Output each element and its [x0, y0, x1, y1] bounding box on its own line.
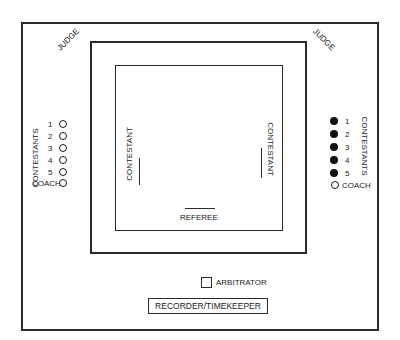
- left-contestant-1-marker: [59, 120, 67, 128]
- left-contestant-2-marker: [59, 132, 67, 140]
- right-contestant-3-marker: [330, 143, 338, 151]
- left-contestant-5-number: 5: [48, 169, 52, 177]
- left-contestant-4-number: 4: [48, 157, 52, 165]
- arbitrator-box: [201, 277, 212, 288]
- contestant-left-line: [139, 158, 140, 185]
- right-coach-label: COACH: [342, 182, 371, 190]
- right-contestant-4-marker: [330, 156, 338, 164]
- referee-label: REFEREE: [180, 214, 218, 222]
- contestant-left-label: CONTESTANT: [126, 127, 134, 181]
- left-contestant-3-number: 3: [48, 145, 52, 153]
- right-contestant-1-number: 1: [345, 118, 349, 126]
- contestant-right-label: CONTESTANT: [266, 122, 274, 176]
- recorder-timekeeper-label: RECORDER/TIMEKEEPER: [155, 301, 261, 311]
- right-contestant-2-marker: [330, 130, 338, 138]
- right-contestant-1-marker: [330, 117, 338, 125]
- right-contestant-4-number: 4: [345, 157, 349, 165]
- left-coach-marker: [59, 179, 67, 187]
- referee-line: [185, 208, 215, 209]
- mat-competition-area: [115, 65, 283, 231]
- right-contestant-3-number: 3: [345, 144, 349, 152]
- contestant-right-line: [261, 148, 262, 178]
- arbitrator-label: ARBITRATOR: [216, 279, 267, 287]
- left-contestant-4-marker: [59, 156, 67, 164]
- left-contestant-5-marker: [59, 168, 67, 176]
- right-contestant-2-number: 2: [345, 131, 349, 139]
- left-contestant-3-marker: [59, 144, 67, 152]
- right-contestant-5-number: 5: [345, 170, 349, 178]
- right-coach-marker: [331, 181, 339, 189]
- left-contestant-1-number: 1: [48, 121, 52, 129]
- recorder-timekeeper-box: RECORDER/TIMEKEEPER: [148, 298, 268, 314]
- left-contestant-2-number: 2: [48, 133, 52, 141]
- left-coach-label: COACH: [32, 180, 61, 188]
- right-contestant-5-marker: [330, 169, 338, 177]
- right-contestants-label: CONTESTANTS: [360, 117, 368, 176]
